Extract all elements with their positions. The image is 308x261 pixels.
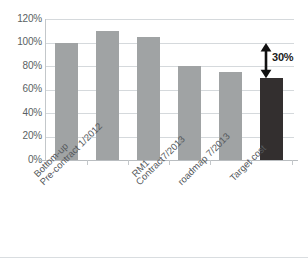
x-axis-tick-2 (128, 160, 129, 165)
bar-chart: 120% 100% 80% 60% 40% 20% 0% Bottom-up P… (0, 0, 308, 261)
gridline-40 (46, 113, 294, 114)
y-axis-tick-20: 20% (2, 131, 42, 141)
x-axis-tick-3 (169, 160, 170, 165)
gridline-60 (46, 90, 294, 91)
y-axis-tick-40: 40% (2, 108, 42, 118)
bar-pre-contract (96, 31, 119, 160)
gridline-120 (46, 19, 294, 20)
bar-rm1 (137, 37, 160, 160)
y-axis-tick-100: 100% (2, 37, 42, 47)
bottom-divider (0, 257, 308, 258)
y-axis-tick-80: 80% (2, 61, 42, 71)
y-axis-tick-60: 60% (2, 84, 42, 94)
x-axis-tick-4 (210, 160, 211, 165)
y-axis: 120% 100% 80% 60% 40% 20% 0% (0, 0, 42, 261)
gridline-100 (46, 43, 294, 44)
x-axis-tick-6 (292, 160, 293, 165)
x-axis-tick-1 (87, 160, 88, 165)
gap-annotation-label: 30% (272, 51, 293, 63)
y-axis-tick-120: 120% (2, 14, 42, 24)
y-axis-tick-0: 0% (2, 155, 42, 165)
gridline-80 (46, 66, 294, 67)
